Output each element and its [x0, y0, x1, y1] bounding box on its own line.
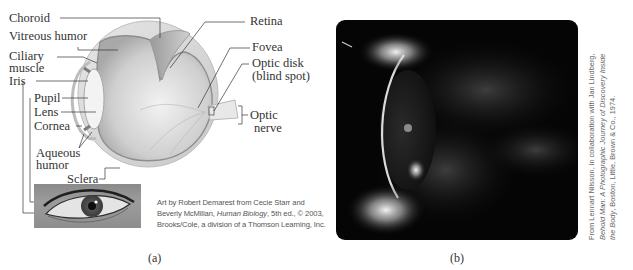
label-vitreous-humor: Vitreous humor	[9, 30, 87, 43]
external-eye-photo	[34, 184, 141, 228]
label-optic-disk-line2: (blind spot)	[252, 70, 310, 83]
label-iris: Iris	[9, 75, 26, 88]
label-fovea: Fovea	[252, 41, 283, 54]
credit-b-vertical: From Lennart Nilsson, in collaboration w…	[587, 53, 619, 240]
panel-b-label: (b)	[450, 251, 464, 266]
credit-a-line1: Art by Robert Demarest from Cecie Starr …	[157, 197, 305, 208]
credit-a-line3: Brooks/Cole, a division of a Thomson Lea…	[157, 219, 326, 230]
label-cornea: Cornea	[34, 120, 70, 133]
label-aqueous-humor-line2: humor	[36, 159, 69, 172]
label-pupil: Pupil	[34, 92, 60, 105]
credit-b-line3: the Body, Boston, Little, Brown & Co., 1…	[608, 53, 619, 240]
panel-a-label: (a)	[148, 251, 161, 266]
label-optic-nerve-line2: nerve	[254, 122, 282, 135]
credit-b-line2: Behold Man: A Photographic Journey of Di…	[598, 53, 609, 240]
label-lens: Lens	[34, 106, 58, 119]
credit-a-line2: Beverly McMillan, Human Biology, 5th ed.…	[157, 208, 324, 219]
label-choroid: Choroid	[9, 12, 50, 25]
eyeball	[72, 21, 238, 167]
credit-b-line1: From Lennart Nilsson, in collaboration w…	[587, 53, 598, 240]
label-retina: Retina	[250, 15, 283, 28]
eye-profile-photo	[336, 20, 578, 240]
